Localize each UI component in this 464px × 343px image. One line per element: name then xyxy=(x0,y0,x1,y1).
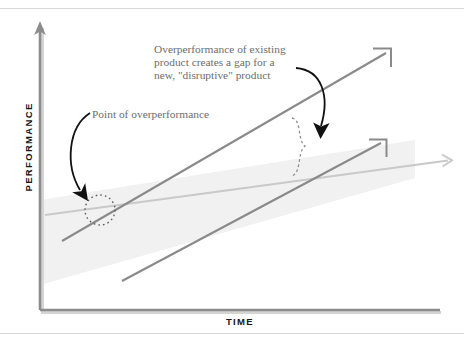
y-axis-label: PERFORMANCE xyxy=(23,108,34,192)
series-existing-product-arrowhead xyxy=(374,49,391,67)
disruptive-innovation-figure: PERFORMANCE TIME Overperformance of exis… xyxy=(0,0,464,343)
point-note-arrow-curve xyxy=(71,113,90,190)
customer-utilization-band xyxy=(40,140,415,285)
overperformance-gap-annotation: Overperformance of existing product crea… xyxy=(154,43,304,83)
point-of-overperformance-annotation: Point of overperformance xyxy=(92,108,252,121)
x-axis-label: TIME xyxy=(180,316,300,327)
